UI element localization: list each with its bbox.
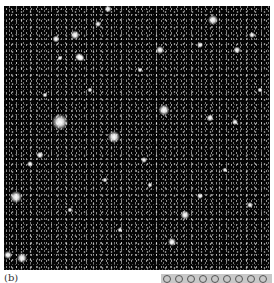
star (159, 105, 170, 116)
star (4, 251, 12, 259)
star-field-image (4, 6, 270, 270)
star (71, 31, 80, 40)
star (108, 131, 120, 143)
star (148, 183, 153, 188)
circle-glyph (223, 275, 231, 283)
circle-glyph (199, 275, 207, 283)
star (249, 32, 255, 38)
star (103, 178, 108, 183)
star (27, 161, 33, 167)
star-noise-background (4, 6, 270, 270)
circle-glyph (163, 275, 171, 283)
star (223, 168, 228, 173)
star (207, 115, 214, 122)
star (37, 152, 44, 159)
scale-strip (161, 274, 272, 283)
star (78, 55, 85, 62)
star (247, 202, 253, 208)
star (156, 46, 164, 54)
star (141, 157, 147, 163)
star (197, 193, 203, 199)
star (181, 211, 190, 220)
star (10, 191, 22, 203)
star (197, 42, 203, 48)
star (53, 36, 60, 43)
star (258, 88, 263, 93)
star (138, 68, 143, 73)
panel-label: (b) (4, 272, 18, 283)
circle-glyph (211, 275, 219, 283)
star (17, 253, 27, 263)
circle-glyph (247, 275, 255, 283)
star (232, 119, 238, 125)
star (118, 228, 123, 233)
star (208, 15, 218, 25)
star (58, 56, 63, 61)
star (88, 88, 93, 93)
star (68, 208, 73, 213)
circle-glyph (175, 275, 183, 283)
star (43, 93, 48, 98)
circle-glyph (187, 275, 195, 283)
star (168, 238, 176, 246)
circle-glyph (259, 275, 267, 283)
star (52, 114, 68, 130)
star (234, 47, 241, 54)
star (95, 21, 101, 27)
circle-glyph (235, 275, 243, 283)
